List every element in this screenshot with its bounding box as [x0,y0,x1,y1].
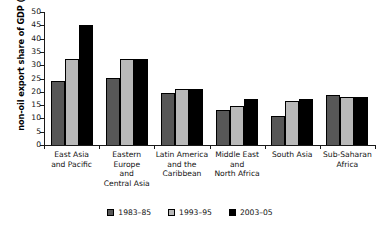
legend-item: 1983–85 [107,208,151,217]
x-axis-category-label: Eastern EuropeandCentral Asia [99,150,154,188]
bar-group-bars [265,12,320,145]
y-axis-tick-label: 15 [31,100,41,109]
x-axis-category-label-line: Middle East [210,150,265,160]
y-axis-tick-label: 30 [31,60,41,69]
x-axis-tick-mark [154,145,155,149]
y-axis-tick-label: 45 [31,20,41,29]
bar-group-bars [44,12,99,145]
x-axis-category-label-line: and the [154,160,209,170]
x-axis-tick-mark [320,145,321,149]
legend-swatch [107,209,114,216]
bar [230,106,244,145]
legend-swatch [229,209,236,216]
bar-group [99,12,154,145]
bar-group-bars [99,12,154,145]
y-axis-tick-label: 5 [36,127,41,136]
legend-swatch [168,209,175,216]
x-axis-category-label-line: Central Asia [99,179,154,189]
bar [271,116,285,145]
bar [175,89,189,145]
legend-label: 2003–05 [240,208,273,217]
bar-group [320,12,375,145]
legend-label: 1983–85 [118,208,151,217]
bar-group [44,12,99,145]
bar-group [154,12,209,145]
x-axis-category-label-line: Eastern Europe [99,150,154,169]
bar [216,110,230,145]
bar-group-bars [210,12,265,145]
bar [106,78,120,145]
grouped-bar-chart: non-oil export share of GDP (%) 05101520… [0,0,380,232]
bar [120,59,134,145]
bar [299,99,313,145]
plot-area: 05101520253035404550 [44,12,375,145]
x-axis-tick-mark [210,145,211,149]
bar-group-bars [154,12,209,145]
bar-group-bars [320,12,375,145]
y-axis-tick-label: 50 [31,7,41,16]
legend-label: 1993–95 [179,208,212,217]
x-axis-category-label-line: Latin America [154,150,209,160]
x-axis-category-label-line: and [99,169,154,179]
legend-item: 2003–05 [229,208,273,217]
bar [285,101,299,145]
x-axis-category-label-line: South Asia [265,150,320,160]
x-axis-tick-mark [375,145,376,149]
bar [161,93,175,145]
x-axis-tick-mark [44,145,45,149]
bar [51,81,65,145]
y-axis-tick-label: 10 [31,113,41,122]
x-axis-category-label-line: Caribbean [154,169,209,179]
bar-group [265,12,320,145]
y-axis-tick-label: 35 [31,47,41,56]
y-axis-tick-label: 25 [31,74,41,83]
bar [354,97,368,145]
bar [79,25,93,145]
bar [340,97,354,145]
y-axis-tick-label: 20 [31,87,41,96]
x-axis-category-label-line: and [210,160,265,170]
y-axis-title: non-oil export share of GDP (%) [16,0,26,134]
x-axis-category-label-line: Sub-Saharan [320,150,375,160]
x-axis-tick-mark [99,145,100,149]
x-axis-category-label: South Asia [265,150,320,160]
x-axis-category-label-line: and Pacific [44,160,99,170]
x-axis-category-label-line: North Africa [210,169,265,179]
x-axis-tick-mark [265,145,266,149]
x-axis-category-label: East Asiaand Pacific [44,150,99,169]
bar [189,89,203,145]
bar-group [210,12,265,145]
bar [244,99,258,145]
y-axis-tick-label: 0 [36,140,41,149]
bar [65,59,79,145]
x-axis-category-label: Sub-SaharanAfrica [320,150,375,169]
x-axis-category-label: Latin Americaand theCaribbean [154,150,209,179]
y-axis-tick-label: 40 [31,34,41,43]
bar [326,95,340,145]
chart-legend: 1983–851993–952003–05 [0,208,380,217]
legend-item: 1993–95 [168,208,212,217]
x-axis-category-label: Middle EastandNorth Africa [210,150,265,179]
x-axis-category-label-line: Africa [320,160,375,170]
bar [134,59,148,145]
x-axis-category-label-line: East Asia [44,150,99,160]
